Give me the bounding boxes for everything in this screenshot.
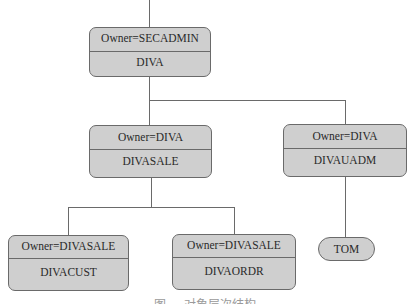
node-tom: TOM xyxy=(318,237,375,261)
edge-to-divacust xyxy=(68,207,69,235)
node-name: DIVASALE xyxy=(90,155,211,167)
edge-diva-down xyxy=(149,76,150,100)
edge-divasale-horizontal xyxy=(68,207,235,208)
node-name: DIVAORDR xyxy=(173,265,295,277)
node-divauadm: Owner=DIVA DIVAUADM xyxy=(283,124,407,177)
node-name: DIVACUST xyxy=(9,266,128,278)
node-divasale: Owner=DIVA DIVASALE xyxy=(89,125,212,178)
figure-caption: 图 — 对象层次结构 xyxy=(0,296,409,304)
owner-label: Owner=DIVA xyxy=(284,130,406,142)
owner-label: Owner=SECADMIN xyxy=(90,32,210,44)
edge-divasale-down xyxy=(151,177,152,207)
node-divider xyxy=(173,257,295,258)
node-divider xyxy=(9,258,128,259)
node-divider xyxy=(284,148,406,149)
owner-label: Owner=DIVASALE xyxy=(9,240,128,252)
edge-incoming-top xyxy=(149,0,150,27)
node-divider xyxy=(90,149,211,150)
edge-to-divasale xyxy=(149,100,150,125)
edge-divauadm-to-tom xyxy=(345,176,346,237)
node-diva: Owner=SECADMIN DIVA xyxy=(89,27,211,77)
node-divider xyxy=(90,51,210,52)
node-name: DIVA xyxy=(90,56,210,68)
edge-to-divaordr xyxy=(234,207,235,234)
edge-diva-horizontal xyxy=(149,100,346,101)
owner-label: Owner=DIVA xyxy=(90,131,211,143)
node-divaordr: Owner=DIVASALE DIVAORDR xyxy=(172,234,296,290)
edge-to-divauadm xyxy=(345,100,346,124)
node-divacust: Owner=DIVASALE DIVACUST xyxy=(8,235,129,291)
owner-label: Owner=DIVASALE xyxy=(173,239,295,251)
node-name: DIVAUADM xyxy=(284,154,406,166)
